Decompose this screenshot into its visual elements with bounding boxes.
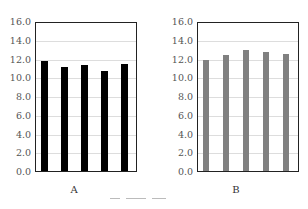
bar — [243, 50, 249, 171]
y-tick-label: 8.0 — [1, 91, 31, 102]
y-tick-label: 8.0 — [163, 91, 193, 102]
bar — [61, 67, 68, 171]
y-tick-label: 4.0 — [163, 129, 193, 140]
y-tick-label: 0.0 — [1, 166, 31, 177]
figure-caption — [110, 198, 210, 200]
bar — [121, 64, 128, 171]
y-tick-label: 6.0 — [163, 110, 193, 121]
gridline — [198, 41, 298, 42]
y-tick-label: 2.0 — [1, 147, 31, 158]
bar — [203, 60, 209, 171]
x-label-a: A — [64, 184, 84, 195]
chart-a: A 0.02.04.06.08.010.012.014.016.0 — [0, 0, 154, 209]
x-label-b: B — [226, 184, 246, 195]
gridline — [36, 60, 136, 61]
y-tick-label: 12.0 — [1, 54, 31, 65]
bar — [41, 61, 48, 171]
y-tick-label: 14.0 — [163, 35, 193, 46]
y-tick-label: 10.0 — [163, 72, 193, 83]
y-tick-label: 16.0 — [1, 16, 31, 27]
y-tick-label: 6.0 — [1, 110, 31, 121]
chart-b: B 0.02.04.06.08.010.012.014.016.0 — [154, 0, 308, 209]
y-tick-label: 10.0 — [1, 72, 31, 83]
bar — [223, 55, 229, 171]
y-tick-label: 12.0 — [163, 54, 193, 65]
y-tick-label: 0.0 — [163, 166, 193, 177]
plot-area-a — [35, 22, 137, 172]
bar — [101, 71, 108, 171]
bar — [263, 52, 269, 171]
gridline — [36, 41, 136, 42]
plot-area-b — [197, 22, 299, 172]
y-tick-label: 2.0 — [163, 147, 193, 158]
y-tick-label: 4.0 — [1, 129, 31, 140]
bar — [81, 65, 88, 171]
y-tick-label: 16.0 — [163, 16, 193, 27]
y-tick-label: 14.0 — [1, 35, 31, 46]
bar — [283, 54, 289, 171]
